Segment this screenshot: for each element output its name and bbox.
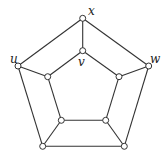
vertex-label-u: u xyxy=(10,52,18,66)
edge-o3-i3 xyxy=(106,120,125,146)
edge-x-w xyxy=(83,18,149,66)
pentagonal-prism-graph: x v u w xyxy=(0,0,167,157)
edge-i4-i5 xyxy=(48,77,62,121)
edges xyxy=(18,18,149,146)
edge-o4-u xyxy=(18,66,43,146)
vertex-o3 xyxy=(121,143,127,149)
edge-o4-i4 xyxy=(43,120,62,146)
vertex-i3 xyxy=(103,117,109,123)
vertices xyxy=(15,15,152,149)
vertex-label-x: x xyxy=(88,4,95,18)
vertex-label-w: w xyxy=(150,52,161,66)
vertex-i4 xyxy=(58,117,64,123)
vertex-i5 xyxy=(45,74,51,80)
edge-v-i2 xyxy=(83,51,119,77)
edge-w-o3 xyxy=(124,66,148,146)
vertex-o4 xyxy=(40,143,46,149)
vertex-v xyxy=(80,48,86,54)
edge-u-x xyxy=(18,18,83,66)
edge-i2-i3 xyxy=(106,77,119,121)
edge-u-i5 xyxy=(18,66,48,77)
edge-w-i2 xyxy=(119,66,149,77)
vertex-x xyxy=(80,15,86,21)
vertex-i2 xyxy=(116,74,122,80)
vertex-label-v: v xyxy=(78,55,85,69)
